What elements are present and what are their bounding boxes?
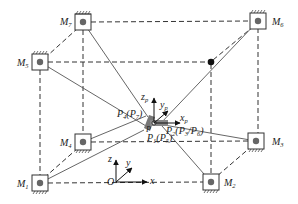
- motor-m5: [32, 51, 48, 70]
- corner-pulley-dot: [208, 59, 215, 66]
- y-axis-arrow: [116, 168, 132, 182]
- label-m6: M6: [271, 16, 284, 28]
- cable-robot-diagram: M7 M6 M5 M4 M3 M1 M2 P4(P7) P1(P5) P2(P3…: [0, 0, 298, 204]
- label-zp: zp: [140, 91, 149, 103]
- cables: [40, 21, 258, 183]
- label-m1: M1: [16, 178, 29, 190]
- motor-m4: [75, 134, 91, 153]
- label-p4: P4(P7): [116, 108, 143, 120]
- motor-m1: [32, 175, 48, 194]
- frame-dashed-edges: [40, 21, 258, 183]
- motor-m2: [203, 174, 219, 193]
- motor-m6: [250, 10, 266, 29]
- labels: M7 M6 M5 M4 M3 M1 M2 P4(P7) P1(P5) P2(P3…: [16, 16, 284, 190]
- label-p: P: [145, 125, 151, 134]
- cable-m6: [160, 21, 258, 124]
- label-yp: yp: [159, 99, 168, 111]
- label-m3: M3: [271, 136, 284, 148]
- label-x: x: [149, 175, 155, 186]
- world-frame-axes: [116, 160, 147, 182]
- motor-m3: [248, 133, 264, 152]
- label-xp: xp: [179, 112, 188, 124]
- motor-m7: [75, 11, 91, 30]
- label-m2: M2: [223, 177, 236, 189]
- label-z: z: [107, 153, 112, 164]
- cable-m7: [83, 22, 148, 117]
- label-origin: O: [107, 176, 114, 187]
- label-p2: P2(P3/P6): [165, 125, 204, 137]
- label-m7: M7: [59, 16, 72, 28]
- label-m5: M5: [16, 57, 29, 69]
- label-y: y: [125, 157, 131, 168]
- label-m4: M4: [59, 137, 72, 149]
